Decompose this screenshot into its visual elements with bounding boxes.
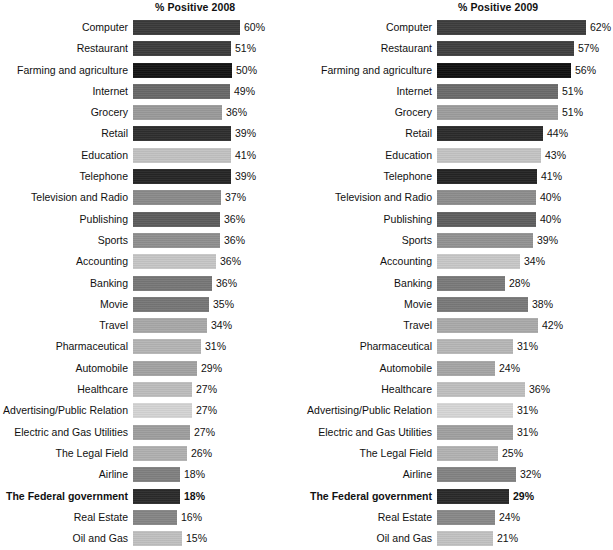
bar-value-label: 41%	[235, 149, 256, 162]
bar	[133, 425, 190, 440]
bar-row: Electric and Gas Utilities27%	[0, 424, 306, 445]
bar	[437, 20, 586, 35]
bar	[133, 126, 231, 141]
bar	[133, 190, 221, 205]
bar-value-label: 36%	[216, 277, 237, 290]
bar-row: Farming and agriculture50%	[0, 62, 306, 83]
bar-category-label: Advertising/Public Relation	[0, 404, 128, 417]
bar	[437, 41, 574, 56]
bar	[437, 382, 525, 397]
bar-value-label: 36%	[224, 213, 245, 226]
bar	[437, 531, 493, 546]
bar-category-label: The Legal Field	[0, 447, 128, 460]
bar-value-label: 27%	[196, 404, 217, 417]
bar	[133, 510, 177, 525]
bar-category-label: Accounting	[306, 255, 432, 268]
bar	[133, 212, 220, 227]
bar-row: Retail44%	[306, 125, 613, 146]
bar-category-label: Restaurant	[0, 42, 128, 55]
bar-row: Internet49%	[0, 83, 306, 104]
bar-row: Real Estate16%	[0, 509, 306, 530]
bar	[133, 169, 231, 184]
bar-category-label: Automobile	[306, 362, 432, 375]
bar-value-label: 38%	[532, 298, 553, 311]
bar-category-label: The Federal government	[306, 490, 432, 503]
bar-row: Banking28%	[306, 275, 613, 296]
bar	[437, 148, 541, 163]
bar-value-label: 26%	[191, 447, 212, 460]
bar-category-label: Movie	[0, 298, 128, 311]
bar	[437, 254, 520, 269]
bar-category-label: Pharmaceutical	[306, 340, 432, 353]
bar	[437, 276, 505, 291]
bar	[437, 63, 571, 78]
bar-category-label: Oil and Gas	[306, 532, 432, 545]
bar-row: Restaurant57%	[306, 40, 613, 61]
bar	[437, 84, 558, 99]
bar-row: Accounting34%	[306, 253, 613, 274]
bar-row: Television and Radio37%	[0, 189, 306, 210]
bar	[133, 361, 197, 376]
bar-value-label: 51%	[562, 85, 583, 98]
bar	[437, 510, 495, 525]
bar-category-label: Accounting	[0, 255, 128, 268]
bar-category-label: Automobile	[0, 362, 128, 375]
bar-category-label: Sports	[306, 234, 432, 247]
bar-row: Telephone39%	[0, 168, 306, 189]
bar-row: The Legal Field26%	[0, 445, 306, 466]
bar-row: Computer60%	[0, 19, 306, 40]
bar-value-label: 36%	[224, 234, 245, 247]
bar-value-label: 57%	[578, 42, 599, 55]
bar-category-label: Electric and Gas Utilities	[306, 426, 432, 439]
bar-value-label: 41%	[541, 170, 562, 183]
bar	[437, 339, 513, 354]
bar	[133, 382, 192, 397]
bar-category-label: Grocery	[0, 106, 128, 119]
bar-row: Airline32%	[306, 466, 613, 487]
bar-row: Automobile29%	[0, 360, 306, 381]
bar	[437, 446, 498, 461]
bar-category-label: Internet	[0, 85, 128, 98]
bar-value-label: 18%	[184, 468, 205, 481]
bar-category-label: Banking	[306, 277, 432, 290]
bar-row: Pharmaceutical31%	[0, 338, 306, 359]
bar	[437, 425, 513, 440]
bar-value-label: 31%	[517, 340, 538, 353]
bar-category-label: Television and Radio	[306, 191, 432, 204]
bar-category-label: Education	[306, 149, 432, 162]
bar-row: Grocery51%	[306, 104, 613, 125]
bar	[133, 318, 207, 333]
panel-title-2009: % Positive 2009	[458, 1, 538, 13]
bar-category-label: Grocery	[306, 106, 432, 119]
bar-value-label: 51%	[562, 106, 583, 119]
bar-category-label: Publishing	[306, 213, 432, 226]
bar-row: Internet51%	[306, 83, 613, 104]
bar-row: Sports39%	[306, 232, 613, 253]
bar	[133, 105, 222, 120]
bar-row: Restaurant51%	[0, 40, 306, 61]
bar	[437, 489, 509, 504]
bar-category-label: Real Estate	[0, 511, 128, 524]
bar-row: The Legal Field25%	[306, 445, 613, 466]
bar	[133, 148, 231, 163]
bar	[133, 41, 231, 56]
bar-value-label: 29%	[201, 362, 222, 375]
bar-category-label: The Federal government	[0, 490, 128, 503]
bar-value-label: 35%	[213, 298, 234, 311]
bar	[133, 467, 180, 482]
bar-row: Education43%	[306, 147, 613, 168]
bar-value-label: 31%	[517, 426, 538, 439]
bar-row: Education41%	[0, 147, 306, 168]
bar-category-label: Internet	[306, 85, 432, 98]
bar-value-label: 39%	[537, 234, 558, 247]
bar-row: Movie38%	[306, 296, 613, 317]
bar-row: Advertising/Public Relation31%	[306, 402, 613, 423]
bar	[437, 126, 543, 141]
bar-category-label: Real Estate	[306, 511, 432, 524]
bar	[437, 105, 558, 120]
bar-row: Retail39%	[0, 125, 306, 146]
bar-value-label: 60%	[244, 21, 265, 34]
bar-value-label: 34%	[211, 319, 232, 332]
bar-row: Publishing36%	[0, 211, 306, 232]
bar-category-label: Restaurant	[306, 42, 432, 55]
